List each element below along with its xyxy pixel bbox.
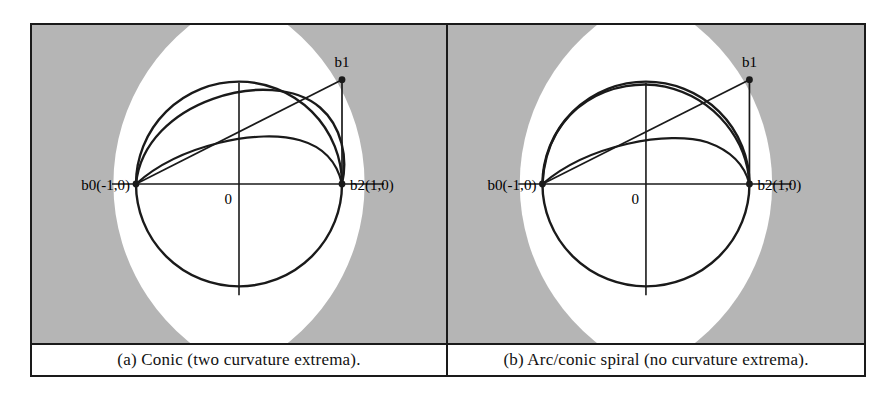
caption-panel-a: (a) Conic (two curvature extrema). xyxy=(32,343,446,375)
label-b0-a: b0(-1,0) xyxy=(81,177,130,194)
point-b0-a xyxy=(133,181,140,188)
label-origin-a: 0 xyxy=(225,191,232,207)
plot-area-b: b0(-1,0) b1 b2(1,0) 0 xyxy=(448,25,864,343)
point-b1-a xyxy=(339,76,346,83)
point-b2-a xyxy=(339,181,346,188)
figure-frame: b0(-1,0) b1 b2(1,0) 0 (a) Conic (two cur… xyxy=(30,23,866,377)
label-b1-b: b1 xyxy=(742,54,757,70)
point-b1-b xyxy=(746,76,753,83)
plot-area-a: b0(-1,0) b1 b2(1,0) 0 xyxy=(32,25,446,343)
point-b2-b xyxy=(746,181,753,188)
label-b2-a: b2(1,0) xyxy=(350,177,394,194)
figure-panel-a: b0(-1,0) b1 b2(1,0) 0 (a) Conic (two cur… xyxy=(32,25,448,375)
label-b1-a: b1 xyxy=(335,54,350,70)
figure-page: b0(-1,0) b1 b2(1,0) 0 (a) Conic (two cur… xyxy=(0,0,894,403)
diagram-b: b0(-1,0) b1 b2(1,0) 0 xyxy=(448,25,864,343)
diagram-a: b0(-1,0) b1 b2(1,0) 0 xyxy=(32,25,446,343)
point-b0-b xyxy=(539,181,546,188)
caption-panel-b: (b) Arc/conic spiral (no curvature extre… xyxy=(448,343,864,375)
label-origin-b: 0 xyxy=(631,191,639,207)
label-b0-b: b0(-1,0) xyxy=(488,177,537,194)
label-b2-b: b2(1,0) xyxy=(757,177,801,194)
figure-panel-b: b0(-1,0) b1 b2(1,0) 0 (b) Arc/conic spir… xyxy=(448,25,864,375)
